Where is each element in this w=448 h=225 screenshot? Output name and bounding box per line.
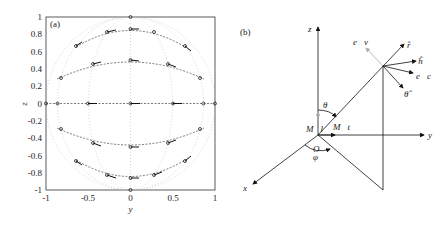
svg-text:0: 0 xyxy=(128,193,133,203)
x-axis-ticks: -1 -0.5 0 0.5 1 xyxy=(42,193,217,203)
svg-text:M⃗t: M⃗t xyxy=(332,122,350,132)
svg-text:1: 1 xyxy=(38,12,43,22)
svg-text:e⃗v: e⃗v xyxy=(353,37,368,47)
x-axis-label: y xyxy=(128,204,133,214)
svg-text:0.6: 0.6 xyxy=(31,47,43,57)
svg-text:0.8: 0.8 xyxy=(31,29,43,39)
svg-text:0.2: 0.2 xyxy=(31,81,42,91)
svg-text:z: z xyxy=(307,24,312,34)
svg-text:1: 1 xyxy=(213,193,218,203)
svg-text:ĥ: ĥ xyxy=(418,56,423,66)
svg-text:-0.5: -0.5 xyxy=(81,193,96,203)
svg-text:0.4: 0.4 xyxy=(31,64,43,74)
svg-text:-0.6: -0.6 xyxy=(28,151,43,161)
panel-b-diagram xyxy=(253,27,424,190)
panel-b-labels: (b) z y x O θ φ r̂ ĥ e⃗c θ̂ e⃗v M⃗l M⃗t xyxy=(240,24,432,193)
svg-text:M⃗l: M⃗l xyxy=(305,124,323,134)
y-axis-ticks: 1 0.8 0.6 0.4 0.2 0 -0.2 -0.4 -0.6 -0.8 … xyxy=(28,12,43,195)
svg-text:-0.8: -0.8 xyxy=(28,168,43,178)
svg-text:θ: θ xyxy=(323,100,328,110)
svg-text:θ̂: θ̂ xyxy=(404,89,412,99)
svg-text:-0.2: -0.2 xyxy=(28,116,42,126)
svg-text:e⃗c: e⃗c xyxy=(416,71,431,81)
y-axis-label: z xyxy=(19,102,29,107)
panel-a-label: (a) xyxy=(50,19,60,29)
svg-text:(b): (b) xyxy=(240,27,251,37)
figure: (a) 1 0.8 0.6 0.4 0.2 0 -0.2 -0.4 -0.6 -… xyxy=(0,0,448,225)
svg-text:r̂: r̂ xyxy=(407,40,411,50)
svg-text:0.5: 0.5 xyxy=(167,193,179,203)
svg-text:-0.4: -0.4 xyxy=(28,133,43,143)
panel-a-plot: (a) 1 0.8 0.6 0.4 0.2 0 -0.2 -0.4 -0.6 -… xyxy=(19,12,217,214)
svg-text:φ: φ xyxy=(313,152,318,162)
svg-text:x: x xyxy=(242,183,247,193)
svg-text:y: y xyxy=(427,130,432,140)
svg-text:-1: -1 xyxy=(35,185,43,195)
svg-text:0: 0 xyxy=(38,99,43,109)
svg-text:-1: -1 xyxy=(42,193,50,203)
